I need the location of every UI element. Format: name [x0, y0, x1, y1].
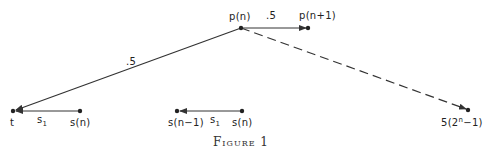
- node-p-n: [239, 26, 243, 30]
- node-far: [466, 108, 470, 112]
- label-edge-mid: s1: [210, 114, 220, 128]
- label-far-suffix: −1): [463, 117, 483, 128]
- figure-caption: Figure 1: [0, 135, 482, 149]
- label-edge-p-t: .5: [126, 56, 136, 67]
- node-s-n-minus-1: [175, 109, 179, 113]
- label-s-n-minus-1: s(n−1): [168, 117, 204, 128]
- edge-p-to-t: [16, 28, 241, 110]
- label-s-n-left: s(n): [70, 117, 91, 128]
- label-far-prefix: 5(2: [441, 117, 459, 128]
- label-p-n: p(n): [229, 11, 251, 22]
- label-s-n-mid: s(n): [232, 117, 253, 128]
- label-t: t: [10, 117, 14, 128]
- label-p-n1: p(n+1): [299, 10, 336, 21]
- label-edge-s-t-sub: 1: [43, 120, 48, 128]
- edge-p-to-far: [241, 28, 466, 109]
- label-far: 5(2n−1): [441, 116, 483, 128]
- node-t: [11, 109, 15, 113]
- label-edge-s-t: s1: [37, 114, 47, 128]
- label-edge-mid-sub: 1: [216, 120, 221, 128]
- node-p-n1: [306, 26, 310, 30]
- node-s-n-mid: [240, 109, 244, 113]
- label-edge-p-p1: .5: [266, 10, 276, 21]
- node-s-n-left: [78, 109, 82, 113]
